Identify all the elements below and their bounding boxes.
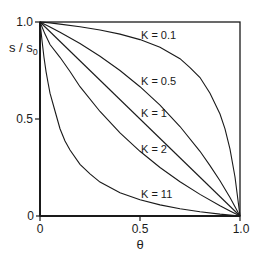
label-k-1: K = 1 [141,107,167,119]
x-tick-label-1: 1.0 [233,222,250,236]
curve-k-1 [40,22,240,216]
x-tick-label-05: 0.5 [132,222,149,236]
label-k-2: K = 2 [141,143,167,155]
label-k-0.5: K = 0.5 [141,75,176,87]
y-axis-label: s / s0 [9,40,38,57]
y-axis-label-main: s / s [9,40,33,55]
chart: 0 0.5 1.0 0 0.5 1.0 s / s0 θ K = 0.1 K =… [0,0,257,264]
y-tick-label-0: 0 [27,209,34,223]
x-axis-label: θ [136,237,143,252]
x-tick-label-0: 0 [37,222,44,236]
y-tick-label-05: 0.5 [16,112,33,126]
label-k-11: K = 11 [141,188,172,200]
y-tick-label-1: 1.0 [16,15,33,29]
label-k-0.1: K = 0.1 [141,29,176,41]
y-axis-label-subscript: 0 [33,47,38,57]
